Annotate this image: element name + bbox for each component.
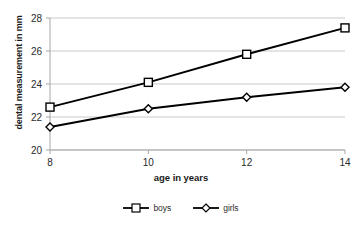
square-marker [243,50,251,58]
series-line-girls [50,87,345,127]
chart-legend: boysgirls [0,202,362,214]
legend-label: girls [223,203,238,213]
data-series-layer [46,24,349,131]
x-tick-labels: 8101214 [47,157,351,168]
y-tick-label: 22 [31,112,43,123]
line-chart: dental measurement in mm 2022242628 8101… [0,0,362,225]
diamond-marker [144,105,152,113]
square-marker [123,202,149,214]
series-line-boys [50,28,345,107]
gridlines [50,18,345,150]
legend-item-boys[interactable]: boys [123,202,171,214]
y-tick-label: 26 [31,46,43,57]
plot-area: 2022242628 8101214 [0,0,362,200]
legend-item-girls[interactable]: girls [193,202,238,214]
diamond-marker [202,204,210,212]
y-tick-label: 28 [31,13,43,24]
square-marker [46,103,54,111]
x-tick-label: 12 [241,157,253,168]
x-axis-title: age in years [0,172,362,183]
square-marker [341,24,349,32]
diamond-marker [46,123,54,131]
x-tick-marks [50,150,345,154]
x-tick-label: 14 [339,157,351,168]
legend-label: boys [153,203,171,213]
diamond-marker [193,202,219,214]
square-marker [144,78,152,86]
x-tick-label: 8 [47,157,53,168]
y-tick-labels: 2022242628 [31,13,43,156]
x-tick-label: 10 [143,157,155,168]
y-tick-label: 20 [31,145,43,156]
diamond-marker [243,93,251,101]
square-marker [132,204,140,212]
y-tick-label: 24 [31,79,43,90]
